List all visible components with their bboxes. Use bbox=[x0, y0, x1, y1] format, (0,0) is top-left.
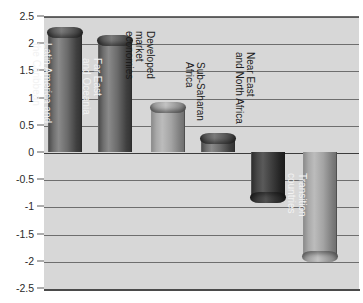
bar-cylinder-cap bbox=[150, 102, 186, 113]
y-tick-mark bbox=[37, 16, 44, 17]
bar-cylinder-cap bbox=[250, 192, 286, 203]
y-tick-label: 0 bbox=[28, 146, 34, 158]
y-tick-mark bbox=[37, 261, 44, 262]
bar-category-label: Far East and Oceania bbox=[81, 58, 102, 115]
gridline-2-5 bbox=[44, 17, 359, 18]
y-tick-label: -2.5 bbox=[16, 282, 34, 294]
bar[interactable] bbox=[48, 32, 82, 152]
y-tick-mark bbox=[37, 288, 44, 289]
bar[interactable] bbox=[303, 152, 337, 257]
gridline-2 bbox=[44, 44, 359, 45]
y-tick-mark bbox=[37, 179, 44, 180]
bar-cylinder-cap bbox=[302, 251, 338, 262]
y-tick-label: -1.5 bbox=[16, 228, 34, 240]
bar-category-label: Near East and North Africa bbox=[234, 52, 255, 124]
y-tick-mark bbox=[37, 125, 44, 126]
bar-category-label: Developed market economies bbox=[124, 31, 156, 79]
y-tick-mark bbox=[37, 206, 44, 207]
bar-body bbox=[151, 107, 185, 152]
bar[interactable] bbox=[251, 152, 285, 198]
bar-category-label: Transition countries bbox=[286, 173, 307, 217]
gridline-0-5 bbox=[44, 126, 359, 127]
y-tick-label: 2.5 bbox=[19, 10, 34, 22]
y-tick-mark bbox=[37, 152, 44, 153]
bar[interactable] bbox=[151, 107, 185, 152]
bar-cylinder-cap bbox=[47, 27, 83, 38]
bar-body bbox=[303, 152, 337, 257]
bar-cylinder-cap bbox=[200, 133, 236, 144]
chart-screenshot: 2.521.510.50-0.5-1-1.5-2-2.5 Latin Ameri… bbox=[0, 0, 363, 303]
y-tick-label: -2 bbox=[25, 255, 34, 267]
y-tick-label: -1 bbox=[25, 200, 34, 212]
bar-category-label: Sub-Saharan Africa bbox=[184, 62, 205, 121]
plot-area-shadow bbox=[44, 289, 360, 291]
y-tick-label: -0.5 bbox=[16, 173, 34, 185]
bar-body bbox=[48, 32, 82, 152]
y-tick-mark bbox=[37, 234, 44, 235]
bar[interactable] bbox=[201, 138, 235, 152]
bar-category-label: Latin America and the Caribbean bbox=[31, 43, 52, 123]
gridline--2 bbox=[44, 262, 359, 263]
